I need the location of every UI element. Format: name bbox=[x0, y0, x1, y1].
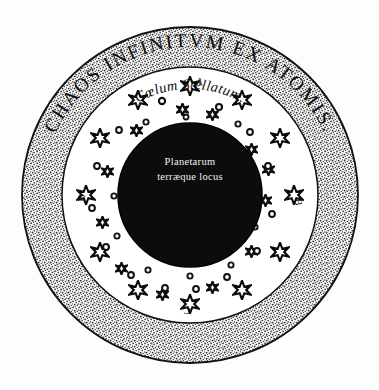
core-disc: Planetarum terræque locus bbox=[118, 123, 262, 267]
quadrant-letter-c: C bbox=[183, 305, 190, 316]
cosmos-diagram: CHAOS INFINITVM EX ATOMIS. bbox=[0, 0, 379, 390]
core-label-line1: Planetarum bbox=[165, 156, 216, 167]
quadrant-letter-d: D bbox=[76, 194, 87, 202]
core-disc-shade bbox=[118, 123, 262, 267]
cosmological-figure: CHAOS INFINITVM EX ATOMIS. bbox=[0, 0, 379, 390]
quadrant-letter-b: B bbox=[293, 198, 304, 205]
core-label-line2: terræque locus bbox=[157, 171, 223, 182]
